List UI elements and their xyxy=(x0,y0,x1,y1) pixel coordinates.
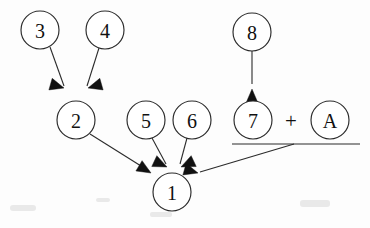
node-8-circle[interactable] xyxy=(233,13,271,51)
diagram-svg: 3 4 8 2 5 6 7 + A xyxy=(0,0,370,228)
node-4-circle[interactable] xyxy=(86,11,124,49)
node-6-circle[interactable] xyxy=(173,101,211,139)
arrowhead-5-to-1 xyxy=(152,156,170,173)
arrowhead-3-to-2 xyxy=(49,78,66,93)
node-1-circle[interactable] xyxy=(153,173,191,211)
arrowhead-2-to-1 xyxy=(136,161,154,178)
edge-7plusa-to-1 xyxy=(200,144,294,172)
node-2[interactable]: 2 xyxy=(57,101,95,139)
node-8[interactable]: 8 xyxy=(233,13,271,51)
node-3-circle[interactable] xyxy=(21,11,59,49)
node-3[interactable]: 3 xyxy=(21,11,59,49)
node-5[interactable]: 5 xyxy=(127,101,165,139)
edge-6-to-1 xyxy=(180,138,187,164)
node-7[interactable]: 7 xyxy=(234,101,272,139)
node-6[interactable]: 6 xyxy=(173,101,211,139)
plus-operator-label: + xyxy=(285,109,297,133)
node-a[interactable]: A xyxy=(311,101,349,139)
node-4[interactable]: 4 xyxy=(86,11,124,49)
diagram-canvas: 3 4 8 2 5 6 7 + A xyxy=(0,0,370,228)
node-7-circle[interactable] xyxy=(234,101,272,139)
node-2-circle[interactable] xyxy=(57,101,95,139)
node-1[interactable]: 1 xyxy=(153,173,191,211)
node-a-circle[interactable] xyxy=(311,101,349,139)
node-5-circle[interactable] xyxy=(127,101,165,139)
